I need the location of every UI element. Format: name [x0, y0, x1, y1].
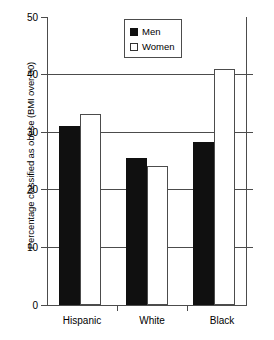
- bar-men-hispanic[interactable]: [59, 126, 80, 305]
- y-tick-label: 20: [27, 184, 38, 195]
- y-axis-line: [47, 17, 48, 306]
- tick-mark: [41, 189, 47, 190]
- legend-label-men: Men: [142, 27, 160, 37]
- tick-mark: [41, 132, 47, 133]
- plot-area: 0 10 20 30 40 50: [47, 17, 247, 306]
- bar-women-white[interactable]: [147, 166, 168, 305]
- legend-item-men: Men: [130, 24, 181, 39]
- bar-men-black[interactable]: [193, 142, 214, 305]
- bar-women-black[interactable]: [214, 69, 235, 305]
- category-separator-tick: [187, 305, 188, 311]
- legend-swatch-filled-square-icon: [130, 28, 138, 36]
- x-category-label-white: White: [139, 315, 165, 326]
- tick-mark: [41, 247, 47, 248]
- x-axis-line: [47, 305, 247, 306]
- category-separator-tick: [117, 305, 118, 311]
- bar-men-white[interactable]: [126, 158, 147, 305]
- bar-women-hispanic[interactable]: [80, 114, 101, 305]
- legend-label-women: Women: [142, 42, 175, 52]
- tick-mark: [247, 74, 253, 75]
- y-axis-right-line: [246, 17, 247, 306]
- legend-item-women: Women: [130, 39, 181, 54]
- tick-mark: [247, 247, 253, 248]
- y-tick-label: 50: [27, 12, 38, 23]
- y-tick-label: 30: [27, 126, 38, 137]
- legend-swatch-hollow-square-icon: [130, 43, 138, 51]
- tick-mark: [247, 189, 253, 190]
- y-tick-label: 10: [27, 242, 38, 253]
- tick-mark: [41, 305, 47, 306]
- y-tick-label: 0: [32, 300, 38, 311]
- x-category-label-hispanic: Hispanic: [63, 315, 101, 326]
- tick-mark: [41, 74, 47, 75]
- chart-legend: Men Women: [124, 19, 182, 58]
- y-tick-label: 40: [27, 68, 38, 79]
- tick-mark: [247, 132, 253, 133]
- x-category-label-black: Black: [210, 315, 234, 326]
- bar-chart-figure: Percentage classified as obese (BMI over…: [0, 0, 274, 340]
- tick-mark: [41, 17, 47, 18]
